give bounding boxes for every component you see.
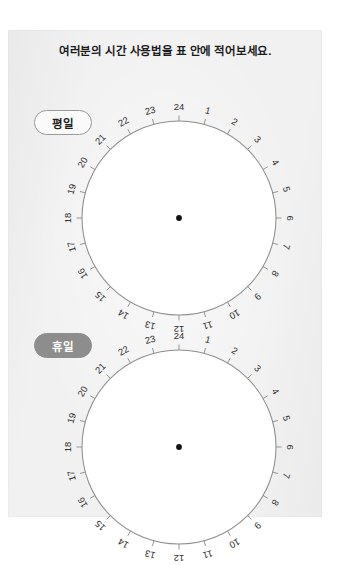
dial-tick — [228, 531, 231, 536]
dial-tick — [80, 191, 85, 192]
dial-tick — [80, 420, 85, 421]
dial-hour-label-5: 5 — [281, 414, 293, 422]
dial-tick — [263, 496, 268, 499]
dial-hour-label-16: 16 — [75, 495, 90, 510]
dial-tick — [228, 302, 231, 307]
dial-hour-label-18: 18 — [62, 442, 73, 452]
dial-hour-label-20: 20 — [75, 384, 90, 399]
dial-center-dot-holiday — [176, 444, 182, 450]
dial-tick — [273, 420, 278, 421]
dial-tick — [248, 516, 252, 520]
dial-tick — [273, 472, 278, 473]
dial-tick — [248, 287, 252, 291]
dial-hour-label-22: 22 — [116, 114, 131, 129]
dial-center-dot-weekday — [176, 215, 182, 221]
dial-tick — [90, 167, 95, 170]
dial-tick — [152, 312, 153, 317]
dial-hour-label-14: 14 — [116, 307, 131, 322]
dial-hour-label-24: 24 — [174, 330, 184, 341]
dial-hour-label-8: 8 — [270, 269, 282, 279]
dial-hour-label-21: 21 — [93, 132, 108, 147]
dial-hour-label-5: 5 — [281, 185, 293, 193]
dial-hour-label-3: 3 — [252, 133, 263, 144]
dial-tick — [107, 146, 111, 150]
dial-tick — [90, 396, 95, 399]
dial-hour-label-4: 4 — [270, 386, 282, 396]
dial-hour-label-3: 3 — [252, 362, 263, 373]
dial-hour-label-9: 9 — [252, 520, 263, 531]
dial-tick — [90, 496, 95, 499]
dial-hour-label-16: 16 — [75, 266, 90, 281]
dial-tick — [273, 191, 278, 192]
dial-tick — [263, 267, 268, 270]
dial-hour-label-1: 1 — [204, 333, 212, 345]
dial-hour-label-2: 2 — [230, 344, 240, 356]
dial-tick — [128, 302, 131, 307]
dial-hour-label-23: 23 — [144, 104, 157, 117]
dial-tick — [228, 358, 231, 363]
dial-hour-label-11: 11 — [202, 548, 214, 561]
dial-hour-label-15: 15 — [93, 518, 108, 533]
dial-tick — [107, 375, 111, 379]
clock-dial-weekday[interactable]: 123456789101112131415161718192021222324 — [54, 93, 304, 343]
dial-hour-label-10: 10 — [227, 307, 242, 322]
dial-hour-label-6: 6 — [285, 444, 296, 449]
dial-hour-label-13: 13 — [144, 548, 157, 561]
dial-hour-label-19: 19 — [65, 183, 78, 196]
dial-tick — [107, 516, 111, 520]
dial-hour-label-19: 19 — [65, 412, 78, 425]
worksheet-page: 여러분의 시간 사용법을 표 안에 적어보세요. 평일 123456789101… — [8, 30, 322, 517]
dial-tick — [204, 312, 205, 317]
dial-hour-label-10: 10 — [227, 536, 242, 551]
dial-hour-label-12: 12 — [174, 553, 184, 564]
dial-tick — [128, 531, 131, 536]
dial-hour-label-6: 6 — [285, 215, 296, 220]
dial-tick — [107, 287, 111, 291]
dial-hour-label-14: 14 — [116, 536, 131, 551]
dial-tick — [204, 541, 205, 546]
dial-tick — [128, 129, 131, 134]
clock-dial-holiday[interactable]: 123456789101112131415161718192021222324 — [54, 322, 304, 565]
dial-tick — [80, 243, 85, 244]
dial-tick — [263, 167, 268, 170]
page-title: 여러분의 시간 사용법을 표 안에 적어보세요. — [8, 42, 322, 58]
dial-tick — [80, 472, 85, 473]
clock-dial-holiday-svg: 123456789101112131415161718192021222324 — [54, 322, 304, 565]
dial-tick — [228, 129, 231, 134]
dial-hour-label-17: 17 — [65, 240, 78, 253]
dial-hour-label-23: 23 — [144, 333, 157, 346]
dial-hour-label-7: 7 — [281, 472, 293, 480]
dial-tick — [248, 375, 252, 379]
dial-hour-label-17: 17 — [65, 469, 78, 482]
dial-hour-label-18: 18 — [62, 213, 73, 223]
dial-hour-label-7: 7 — [281, 243, 293, 251]
dial-hour-label-20: 20 — [75, 155, 90, 170]
dial-hour-label-8: 8 — [270, 498, 282, 508]
dial-hour-label-24: 24 — [174, 101, 184, 112]
dial-hour-label-15: 15 — [93, 289, 108, 304]
dial-tick — [128, 358, 131, 363]
dial-tick — [204, 348, 205, 353]
dial-hour-label-4: 4 — [270, 157, 282, 167]
dial-hour-label-2: 2 — [230, 115, 240, 127]
dial-tick — [90, 267, 95, 270]
dial-tick — [273, 243, 278, 244]
dial-tick — [152, 541, 153, 546]
clock-dial-weekday-svg: 123456789101112131415161718192021222324 — [54, 93, 304, 343]
dial-hour-label-1: 1 — [204, 104, 212, 116]
dial-tick — [152, 119, 153, 124]
dial-tick — [152, 348, 153, 353]
dial-tick — [204, 119, 205, 124]
dial-tick — [248, 146, 252, 150]
dial-tick — [263, 396, 268, 399]
dial-hour-label-9: 9 — [252, 291, 263, 302]
dial-hour-label-22: 22 — [116, 343, 131, 358]
dial-hour-label-21: 21 — [93, 361, 108, 376]
